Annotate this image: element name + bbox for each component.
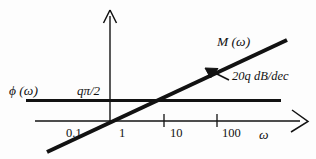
slope-annotation-label: 20q dB/dec [232,70,289,83]
magnitude-curve-label: M (ω) [217,35,250,49]
bode-plot-figure: ϕ (ω) qπ/2 M (ω) 20q dB/dec ω 0.1 1 10 1… [0,0,316,159]
x-tick-label-1: 1 [119,127,125,140]
x-tick-label-100: 100 [222,127,241,140]
x-axis-label: ω [259,128,269,142]
phase-value-label: qπ/2 [77,84,100,97]
phase-curve-label: ϕ (ω) [9,84,38,98]
x-tick-label-10: 10 [170,127,183,140]
y-axis [104,10,117,121]
x-tick-label-0.1: 0.1 [66,127,82,140]
